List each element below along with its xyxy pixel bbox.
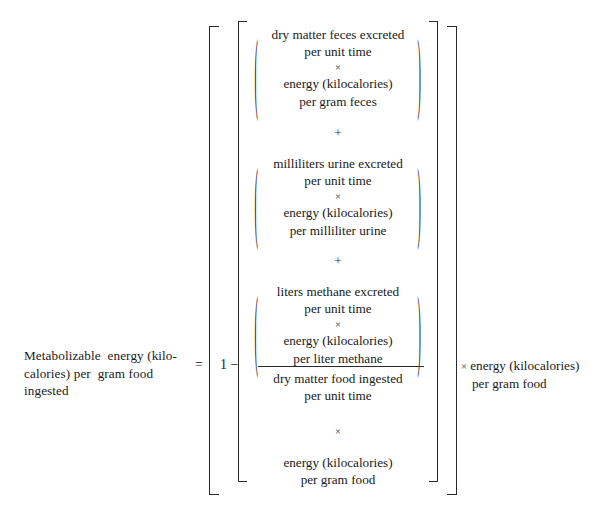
- denominator-energy-block: energy (kilocalories) per gram food: [248, 454, 428, 488]
- numerator-group-urine: ( milliliters urine excreted per unit ti…: [250, 155, 426, 243]
- denominator-food-block: dry matter food ingested per unit time: [248, 370, 428, 404]
- inner-bracket-left: [238, 21, 247, 482]
- rhs-factor-line-2: per gram food: [461, 375, 611, 392]
- urine-times-operator: ×: [264, 189, 412, 204]
- urine-line-2: per unit time: [264, 172, 412, 189]
- equals-sign: =: [195, 357, 203, 373]
- open-paren-icon: (: [250, 26, 263, 114]
- plus-separator-2: +: [250, 254, 426, 268]
- numerator-group-feces: ( dry matter feces excreted per unit tim…: [250, 26, 426, 114]
- numerator-group-methane: ( liters methane excreted per unit time …: [250, 283, 426, 371]
- fraction-bar: [258, 366, 424, 367]
- open-paren-icon: (: [250, 155, 263, 243]
- rhs-factor-line-1: × energy (kilocalories): [461, 357, 611, 375]
- methane-line-3: energy (kilocalories): [264, 332, 412, 349]
- lhs-label-line-2: calories) per gram food: [24, 365, 192, 383]
- methane-line-2: per unit time: [264, 300, 412, 317]
- feces-times-operator: ×: [264, 60, 412, 75]
- one-minus-term: 1 −: [220, 357, 238, 373]
- denominator-energy-line-1: energy (kilocalories): [248, 454, 428, 471]
- urine-line-3: energy (kilocalories): [264, 204, 412, 221]
- numerator-group-methane-body: liters methane excreted per unit time × …: [263, 283, 413, 371]
- urine-line-4: per milliliter urine: [264, 222, 412, 239]
- denominator-times-operator: ×: [248, 424, 428, 439]
- rhs-factor-text-1: energy (kilocalories): [470, 358, 579, 373]
- feces-line-2: per unit time: [264, 43, 412, 60]
- outer-bracket-left: [209, 26, 219, 495]
- lhs-label: Metabolizable energy (kilo- calories) pe…: [24, 347, 192, 400]
- numerator-group-feces-body: dry matter feces excreted per unit time …: [263, 26, 413, 114]
- close-paren-icon: ): [413, 26, 426, 114]
- rhs-trailing-factor: × energy (kilocalories) per gram food: [461, 357, 611, 392]
- open-paren-icon: (: [250, 283, 263, 371]
- urine-line-1: milliliters urine excreted: [264, 155, 412, 172]
- rhs-times-operator: ×: [461, 361, 467, 372]
- denominator-energy-line-2: per gram food: [248, 471, 428, 488]
- feces-line-4: per gram feces: [264, 93, 412, 110]
- outer-bracket-right: [447, 26, 457, 495]
- lhs-label-line-1: Metabolizable energy (kilo-: [24, 347, 192, 365]
- lhs-label-line-3: ingested: [24, 382, 192, 400]
- feces-line-1: dry matter feces excreted: [264, 26, 412, 43]
- feces-line-3: energy (kilocalories): [264, 75, 412, 92]
- methane-times-operator: ×: [264, 317, 412, 332]
- denominator-food-line-2: per unit time: [248, 387, 428, 404]
- methane-line-4: per liter methane: [264, 350, 412, 367]
- methane-line-1: liters methane excreted: [264, 283, 412, 300]
- numerator-group-urine-body: milliliters urine excreted per unit time…: [263, 155, 413, 243]
- denominator-food-line-1: dry matter food ingested: [248, 370, 428, 387]
- close-paren-icon: ): [413, 155, 426, 243]
- close-paren-icon: ): [413, 283, 426, 371]
- plus-separator-1: +: [250, 126, 426, 140]
- inner-bracket-right: [429, 21, 438, 482]
